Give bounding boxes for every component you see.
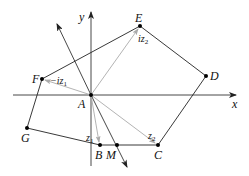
point-A bbox=[89, 93, 93, 97]
label-z2: z2 bbox=[147, 130, 156, 143]
label-G: G bbox=[21, 131, 30, 145]
point-C bbox=[156, 143, 160, 147]
label-A: A bbox=[77, 97, 86, 111]
point-G bbox=[25, 126, 29, 130]
edge-E-D bbox=[140, 26, 206, 76]
y-axis-label: y bbox=[78, 10, 85, 24]
edge-D-C bbox=[158, 76, 206, 145]
label-C: C bbox=[154, 148, 163, 162]
point-B bbox=[98, 143, 102, 147]
edge-F-G bbox=[27, 79, 42, 128]
vector-iz2 bbox=[91, 29, 138, 95]
point-M bbox=[115, 143, 119, 147]
x-axis-label: x bbox=[231, 97, 238, 111]
label-neg-iz1: −iz1 bbox=[50, 75, 67, 88]
label-D: D bbox=[209, 69, 219, 83]
label-M: M bbox=[105, 148, 117, 162]
vector-z2 bbox=[91, 95, 155, 143]
label-F: F bbox=[31, 72, 40, 86]
complex-plane-diagram: x y A B C D E F G M z1 z2 −iz1 iz2 bbox=[0, 0, 249, 176]
label-iz2: iz2 bbox=[138, 33, 149, 46]
label-B: B bbox=[95, 148, 103, 162]
label-z1: z1 bbox=[85, 132, 94, 145]
point-D bbox=[204, 74, 208, 78]
point-F bbox=[40, 77, 44, 81]
label-E: E bbox=[134, 11, 143, 25]
